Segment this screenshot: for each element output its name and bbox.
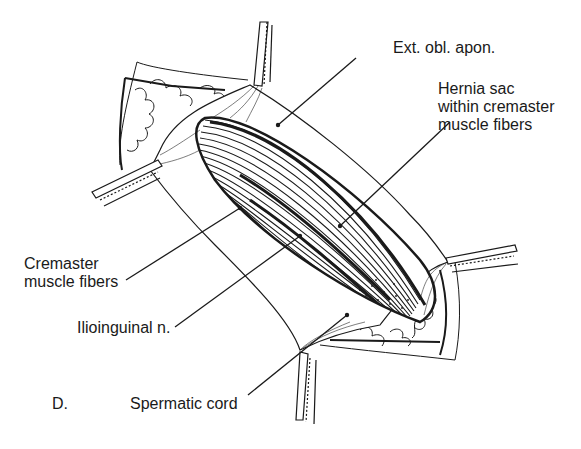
retractor-bottom	[296, 352, 316, 424]
label-cremaster-muscle-fibers: Cremaster muscle fibers	[24, 255, 118, 291]
panel-letter: D.	[52, 395, 68, 413]
label-ilioinguinal-nerve: Ilioinguinal n.	[77, 319, 170, 337]
retractor-left	[92, 160, 162, 206]
retractor-top	[254, 22, 272, 86]
label-ext-obl-apon: Ext. obl. apon.	[393, 39, 495, 57]
surgical-illustration	[0, 0, 581, 449]
label-spermatic-cord: Spermatic cord	[130, 395, 238, 413]
retractor-right	[446, 245, 518, 272]
label-hernia-sac: Hernia sac within cremaster muscle fiber…	[438, 80, 554, 134]
